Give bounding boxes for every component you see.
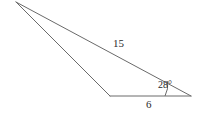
side-length-label-long: 15 bbox=[113, 38, 124, 49]
geometry-figure: 15 28° 6 bbox=[0, 0, 200, 114]
triangle-edge-short bbox=[16, 2, 110, 96]
triangle-drawing bbox=[0, 0, 200, 114]
side-length-label-base: 6 bbox=[146, 99, 152, 110]
angle-measure-label: 28° bbox=[158, 80, 172, 90]
